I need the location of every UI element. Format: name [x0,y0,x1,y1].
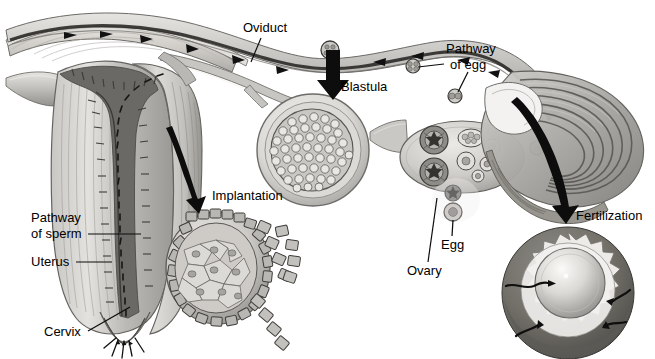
label-implantation: Implantation [212,189,283,203]
label-cervix: Cervix [44,325,81,339]
leader-pathway-of-egg-lower [458,72,468,92]
label-fertilization: Fertilization [576,209,642,223]
implantation-inset [166,209,301,351]
label-egg: Egg [441,238,464,252]
leader-pathway-of-egg-upper [418,64,444,67]
label-pathway-of-sperm-2: of sperm [31,227,82,241]
label-pathway-of-sperm-1: Pathway [31,211,81,225]
label-pathway-of-egg-2: of egg [450,58,486,72]
fertilization-inset [502,227,634,359]
leader-egg [452,220,453,236]
label-pathway-of-egg-1: Pathway [446,42,496,56]
label-uterus: Uterus [31,255,69,269]
leader-ovary [428,198,437,262]
label-blastula: Blastula [341,80,387,94]
figure-canvas: Oviduct Pathway of egg Blastula Implanta… [0,0,655,359]
label-oviduct: Oviduct [243,21,287,35]
reproductive-system-diagram [0,0,655,359]
label-ovary: Ovary [407,264,442,278]
